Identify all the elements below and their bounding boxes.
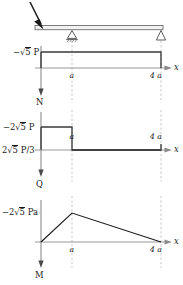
- q-axis-label-x: x: [174, 145, 179, 153]
- beam-sketch: [30, 2, 166, 42]
- q-ordinate-arrowhead: [38, 170, 43, 178]
- n-tick-4a: 4 a: [150, 72, 162, 80]
- n-value-label: −√5 P: [13, 47, 39, 56]
- m-ordinate-label: M: [35, 271, 44, 279]
- m-tick-4a: 4 a: [150, 246, 162, 254]
- n-axis-label-x: x: [174, 63, 179, 71]
- beam-member: [35, 26, 163, 30]
- force-diagram-figure: −√5 P a 4 a x N −2√5 P 2√5 P/3 a 4 a x Q…: [0, 0, 183, 285]
- n-ordinate-arrowhead: [38, 89, 43, 97]
- m-x-arrowhead: [165, 239, 173, 244]
- q-tick-a: a: [70, 133, 75, 141]
- n-x-arrowhead: [165, 65, 173, 70]
- m-value-label: −2√5 Pa: [2, 207, 38, 216]
- m-ordinate-arrowhead: [38, 261, 43, 269]
- support-left-pin: [66, 31, 78, 43]
- m-diagram-trace: [41, 213, 161, 242]
- n-tick-a: a: [70, 72, 75, 80]
- panel-shear-force: [35, 112, 172, 177]
- q-value-label-top: −2√5 P: [3, 122, 34, 131]
- q-value-label-bottom: 2√5 P/3: [2, 145, 35, 154]
- n-diagram-trace: [41, 52, 161, 68]
- panel-bending-moment: [35, 200, 172, 268]
- m-axis-label-x: x: [174, 237, 179, 245]
- q-tick-4a: 4 a: [150, 133, 162, 141]
- q-x-arrowhead: [165, 147, 173, 152]
- diagram-canvas: [0, 0, 183, 285]
- support-right-roller: [156, 31, 165, 41]
- q-ordinate-label: Q: [36, 180, 43, 188]
- m-tick-a: a: [70, 246, 75, 254]
- q-diagram-trace: [41, 127, 161, 150]
- n-ordinate-label: N: [36, 98, 43, 106]
